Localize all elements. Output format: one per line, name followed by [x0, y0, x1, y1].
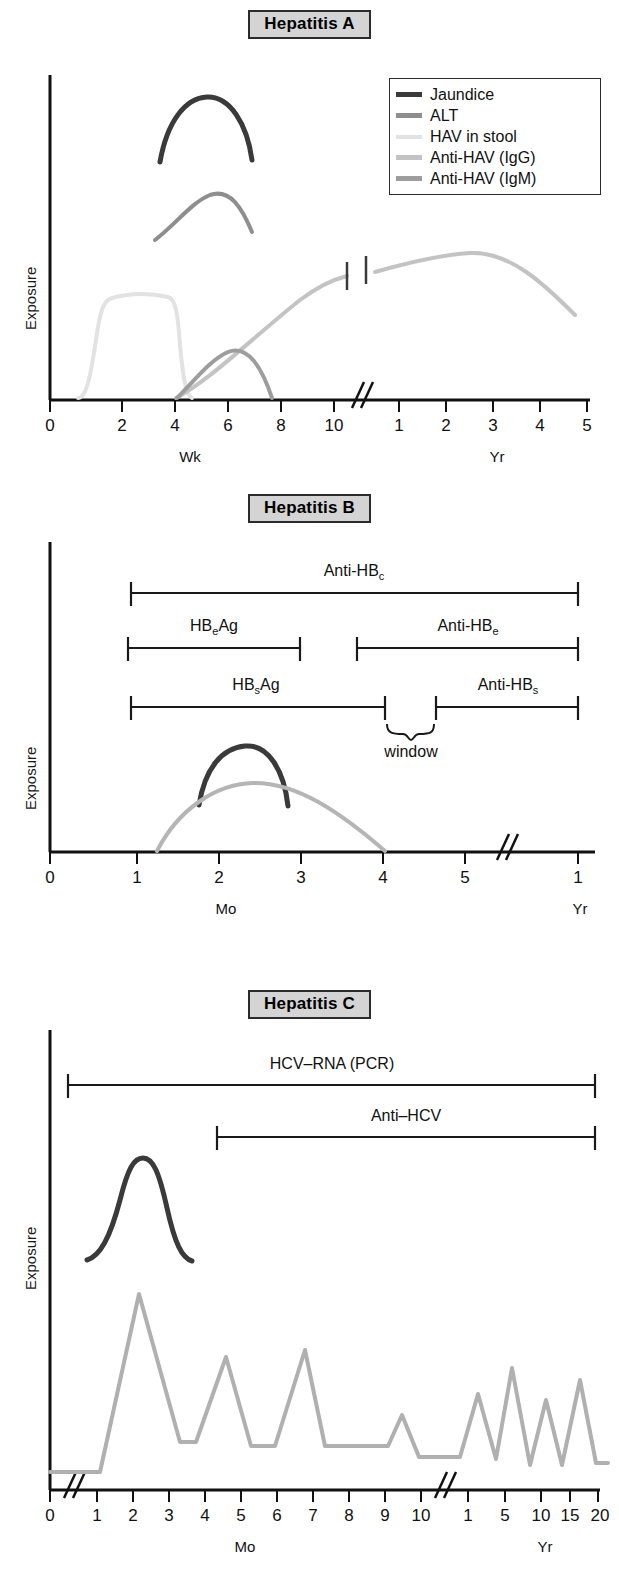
bar-label-anti-hbs-sub: s: [533, 684, 539, 696]
panel-hepatitis-a: Hepatitis A Exposure: [0, 0, 619, 480]
panel-c-svg: [0, 960, 619, 1560]
panel-a-tick-7: 2: [441, 416, 450, 436]
legend-label-anti-hav-igm: Anti-HAV (IgM): [430, 171, 536, 187]
bar-label-anti-hbc-base: Anti-HB: [324, 562, 379, 579]
bar-anti-hbs: [436, 696, 578, 720]
curve-jaundice-c: [87, 1158, 192, 1261]
panel-a-tick-6: 1: [394, 416, 403, 436]
panel-a-tick-5: 10: [325, 416, 344, 436]
panel-c-axis-break-icon-left: [64, 1472, 85, 1498]
legend-label-hav-in-stool: HAV in stool: [430, 129, 517, 145]
panel-b-tick-1: 1: [132, 868, 141, 888]
panel-hepatitis-b: Hepatitis B Exposure: [0, 480, 619, 960]
panel-a-tick-3: 6: [223, 416, 232, 436]
curve-jaundice: [160, 97, 252, 162]
panel-c-tick-11: 1: [463, 1506, 472, 1526]
panel-a-tick-9: 4: [535, 416, 544, 436]
panel-a-unit-yr: Yr: [490, 448, 505, 465]
panel-b-axis-break-icon: [497, 834, 518, 860]
panel-b-tick-5: 5: [460, 868, 469, 888]
panel-a-tick-1: 2: [117, 416, 126, 436]
curve-anti-hav-igg-early: [176, 276, 347, 398]
panel-c-axis-break-icon-right: [435, 1472, 456, 1498]
curve-alt-b: [157, 783, 385, 851]
panel-a-plot: [0, 0, 619, 440]
bar-hbeag: [128, 637, 300, 661]
panel-c-tick-9: 9: [380, 1506, 389, 1526]
bar-label-hcv-rna: HCV–RNA (PCR): [270, 1055, 394, 1073]
legend-item-anti-hav-igg: Anti-HAV (IgG): [396, 147, 592, 168]
window-label: window: [384, 743, 437, 761]
panel-c-tick-1: 1: [92, 1506, 101, 1526]
panel-a-x-ticks: [50, 400, 587, 412]
panel-b-tick-6: 1: [573, 868, 582, 888]
curve-alt: [155, 194, 252, 240]
panel-a-tick-8: 3: [488, 416, 497, 436]
bar-label-anti-hbc: Anti-HBc: [324, 562, 385, 582]
legend-swatch-anti-hav-igg: [396, 155, 422, 160]
panel-a-unit-wk: Wk: [179, 448, 201, 465]
legend-item-jaundice: Jaundice: [396, 84, 592, 105]
panel-b-tick-3: 3: [296, 868, 305, 888]
panel-hepatitis-c: Hepatitis C Exposure: [0, 960, 619, 1596]
bar-hbsag: [131, 696, 385, 720]
bar-label-hbeag-post: Ag: [218, 617, 238, 634]
panel-c-x-ticks: [50, 1490, 598, 1502]
panel-a-tick-10: 5: [582, 416, 591, 436]
panel-c-unit-yr: Yr: [538, 1538, 553, 1555]
bar-label-hbeag: HBeAg: [190, 617, 238, 637]
panel-b-unit-mo: Mo: [216, 900, 237, 917]
panel-a-axis-break-icon: [352, 382, 373, 408]
bar-hcv-rna: [68, 1074, 595, 1098]
panel-c-tick-12: 5: [500, 1506, 509, 1526]
bar-label-hbsag-pre: HB: [232, 676, 254, 693]
curve-break-marks: [347, 256, 366, 290]
bar-label-anti-hbe-base: Anti-HB: [437, 617, 492, 634]
legend-label-alt: ALT: [430, 108, 458, 124]
curve-jaundice-b: [199, 746, 288, 806]
legend-swatch-hav-in-stool: [396, 135, 422, 139]
panel-c-tick-4: 4: [200, 1506, 209, 1526]
panel-b-svg: [0, 480, 619, 920]
legend-swatch-jaundice: [396, 92, 422, 97]
panel-b-tick-0: 0: [45, 868, 54, 888]
panel-c-tick-5: 5: [236, 1506, 245, 1526]
legend-label-anti-hav-igg: Anti-HAV (IgG): [430, 150, 536, 166]
legend-swatch-alt: [396, 113, 422, 118]
panel-a-svg: [0, 0, 619, 440]
bar-label-hbeag-pre: HB: [190, 617, 212, 634]
panel-b-unit-yr: Yr: [573, 900, 588, 917]
bar-label-anti-hbc-sub: c: [379, 570, 385, 582]
panel-c-tick-15: 20: [591, 1506, 610, 1526]
legend-swatch-anti-hav-igm: [396, 176, 422, 181]
legend-label-jaundice: Jaundice: [430, 87, 494, 103]
bar-anti-hcv: [217, 1126, 595, 1150]
panel-c-unit-mo: Mo: [235, 1538, 256, 1555]
panel-a-tick-0: 0: [45, 416, 54, 436]
legend-item-anti-hav-igm: Anti-HAV (IgM): [396, 168, 592, 189]
panel-a-legend: Jaundice ALT HAV in stool Anti-HAV (IgG)…: [389, 78, 601, 195]
panel-c-tick-6: 6: [272, 1506, 281, 1526]
panel-a-tick-4: 8: [276, 416, 285, 436]
panel-c-plot: [0, 960, 619, 1560]
bar-label-hbsag: HBsAg: [232, 676, 279, 696]
panel-c-tick-13: 10: [532, 1506, 551, 1526]
bar-label-anti-hbs: Anti-HBs: [478, 676, 539, 696]
panel-c-tick-10: 10: [412, 1506, 431, 1526]
bar-label-anti-hcv: Anti–HCV: [371, 1107, 441, 1125]
curve-anti-hav-igg-late: [375, 253, 575, 315]
panel-c-tick-8: 8: [344, 1506, 353, 1526]
panel-c-tick-14: 15: [561, 1506, 580, 1526]
panel-a-tick-2: 4: [170, 416, 179, 436]
bar-anti-hbe: [357, 637, 578, 661]
panel-c-tick-0: 0: [45, 1506, 54, 1526]
panel-b-tick-4: 4: [378, 868, 387, 888]
panel-b-plot: [0, 480, 619, 920]
bar-label-hbsag-post: Ag: [260, 676, 280, 693]
panel-b-tick-2: 2: [214, 868, 223, 888]
legend-item-hav-in-stool: HAV in stool: [396, 126, 592, 147]
panel-c-tick-2: 2: [128, 1506, 137, 1526]
window-brace: [387, 724, 434, 740]
curve-alt-c: [50, 1294, 608, 1472]
panel-c-tick-3: 3: [164, 1506, 173, 1526]
